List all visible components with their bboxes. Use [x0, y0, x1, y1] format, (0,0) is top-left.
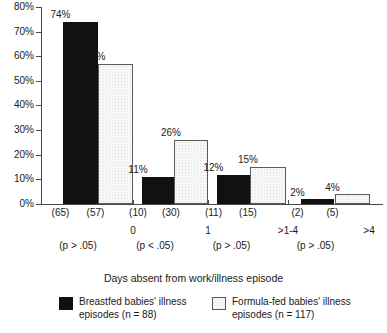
bar-breastfed-3 [301, 199, 334, 204]
legend-label-formula: Formula-fed babies' illness episodes (n … [232, 296, 356, 321]
y-tick-label-30-text: 30% [14, 124, 34, 135]
bar-value-formula-0: 57% [78, 52, 113, 62]
bar-value-formula-3: 4% [315, 183, 350, 193]
y-tick-label-70: 70% [0, 27, 34, 37]
legend-swatch-formula-icon [212, 297, 226, 310]
y-tick-label-70-text: 70% [14, 26, 34, 37]
legend-label-formula-line2: episodes (n = 117) [232, 309, 356, 322]
count-label-breastfed-0-text: (65) [52, 207, 70, 218]
x-tick-label-2: >1-4 [268, 225, 308, 236]
x-tick-label-0-text: 0 [130, 225, 136, 236]
bar-value-formula-2: 15% [230, 155, 266, 165]
x-tick-label-1-text: 1 [205, 225, 211, 236]
x-tick-label-3-text: >4 [363, 225, 374, 236]
bar-formula-3 [335, 194, 370, 204]
y-tick-label-50-text: 50% [14, 75, 34, 86]
bar-value-formula-0-text: 57% [85, 51, 105, 62]
x-axis-line [42, 204, 383, 205]
bar-value-formula-2-text: 15% [238, 154, 258, 165]
count-label-formula-1-text: (30) [162, 207, 180, 218]
bar-value-breastfed-1-text: 11% [128, 164, 147, 175]
y-tick-label-80-text: 80% [14, 1, 34, 12]
bar-value-breastfed-2: 12% [197, 163, 230, 173]
bar-breastfed-1 [142, 177, 174, 204]
legend-item-formula: Formula-fed babies' illness episodes (n … [212, 296, 356, 321]
bar-value-breastfed-1: 11% [122, 165, 154, 175]
legend-item-breastfed: Breastfed babies' illness episodes (n = … [59, 296, 203, 321]
p-value-group-3-text: (p > .05) [297, 240, 335, 251]
bar-breastfed-0 [63, 22, 98, 204]
bar-value-formula-1-text: 26% [161, 127, 181, 138]
count-label-formula-0: (57) [78, 207, 113, 218]
p-value-group-0-text: (p > .05) [59, 240, 97, 251]
x-axis-title-text: Days absent from work/illness episode [104, 272, 283, 284]
count-label-breastfed-2-text: (11) [205, 207, 222, 218]
bar-value-breastfed-0-text: 74% [50, 9, 70, 20]
x-axis-title: Days absent from work/illness episode [0, 272, 387, 284]
legend-label-breastfed-line1: Breastfed babies' illness [79, 296, 203, 309]
count-label-breastfed-0: (65) [43, 207, 78, 218]
y-tick-label-20-text: 20% [14, 149, 34, 160]
bar-breastfed-2 [217, 175, 250, 205]
y-tick-label-20: 20% [0, 150, 34, 160]
p-value-group-3: (p > .05) [281, 240, 350, 251]
count-label-formula-2-text: (15) [239, 207, 257, 218]
y-tick-label-30: 30% [0, 125, 34, 135]
y-tick-label-40: 40% [0, 100, 34, 110]
p-value-group-2: (p > .05) [197, 240, 266, 251]
count-label-breastfed-3: (2) [281, 207, 314, 218]
y-tick-label-60: 60% [0, 51, 34, 61]
bar-value-breastfed-0: 74% [43, 10, 78, 20]
count-label-breastfed-2: (11) [197, 207, 230, 218]
count-label-breastfed-1-text: (10) [129, 207, 147, 218]
count-label-formula-3-text: (5) [326, 207, 338, 218]
legend-label-breastfed-line2: episodes (n = 88) [79, 309, 203, 322]
y-tick-label-60-text: 60% [14, 50, 34, 61]
p-value-group-0: (p > .05) [43, 240, 113, 251]
count-label-formula-2: (15) [230, 207, 266, 218]
y-tick-label-10-text: 10% [14, 173, 34, 184]
legend-label-breastfed: Breastfed babies' illness episodes (n = … [79, 296, 203, 321]
count-label-breastfed-3-text: (2) [291, 207, 303, 218]
bar-formula-0 [98, 64, 133, 204]
x-tick-label-1: 1 [193, 225, 223, 236]
bar-value-formula-1: 26% [154, 128, 188, 138]
x-tick-label-2-text: >1-4 [278, 225, 298, 236]
y-tick-label-50: 50% [0, 76, 34, 86]
count-label-formula-3: (5) [315, 207, 350, 218]
legend-swatch-breastfed-icon [59, 297, 73, 310]
y-tick-0 [36, 204, 42, 205]
p-value-group-1-text: (p < .05) [136, 240, 174, 251]
count-label-breastfed-1: (10) [122, 207, 154, 218]
bar-value-breastfed-3-text: 2% [290, 187, 304, 198]
y-tick-label-0-text: 0% [20, 198, 34, 209]
legend-label-formula-line1: Formula-fed babies' illness [232, 296, 356, 309]
count-label-formula-0-text: (57) [87, 207, 105, 218]
plot-area [42, 7, 383, 204]
x-tick-label-0: 0 [118, 225, 148, 236]
bar-value-breastfed-2-text: 12% [203, 162, 223, 173]
bar-formula-2 [250, 167, 286, 204]
count-label-formula-1: (30) [154, 207, 188, 218]
y-tick-label-10: 10% [0, 174, 34, 184]
chart-legend: Breastfed babies' illness episodes (n = … [0, 296, 387, 328]
bar-value-formula-3-text: 4% [325, 182, 339, 193]
bar-value-breastfed-3: 2% [281, 188, 314, 198]
x-tick-label-3: >4 [355, 225, 383, 236]
p-value-group-2-text: (p > .05) [213, 240, 251, 251]
y-tick-label-0: 0% [0, 199, 34, 209]
p-value-group-1: (p < .05) [122, 240, 188, 251]
y-tick-label-80: 80% [0, 2, 34, 12]
y-tick-label-40-text: 40% [14, 99, 34, 110]
bar-chart-figure: 80% 70% 60% 50% 40% 30% 20% 10% 0% 74% 5… [0, 0, 387, 333]
